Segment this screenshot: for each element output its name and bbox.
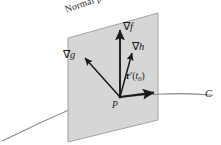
nabla-icon: ∇ [63,49,70,60]
grad-g-label: ∇g [63,50,75,61]
grad-f-label: ∇f [123,22,133,33]
grad-h-label: ∇h [132,42,144,53]
point-P-label: P [112,101,118,111]
figure-canvas [0,0,221,145]
normal-plane-figure: Normal plane ∇f ∇g ∇h r′(t0) P C [0,0,221,145]
grad-g-variable: g [70,49,75,60]
grad-h-variable: h [139,41,144,52]
point-P-marker [119,96,122,99]
nabla-icon: ∇ [123,21,130,32]
curve-C-label: C [205,89,212,100]
grad-f-variable: f [130,21,133,32]
r-prime-t0-label: r′(t0) [126,72,145,83]
paren-close: ) [142,71,145,81]
nabla-icon: ∇ [132,41,139,52]
